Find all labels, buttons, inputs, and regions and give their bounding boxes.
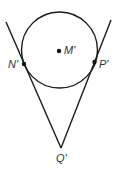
point-n-dot (22, 62, 26, 66)
label-p: P' (99, 58, 109, 70)
label-n: N' (8, 58, 19, 70)
tangent-line-right (61, 20, 111, 148)
geometry-diagram: M' N' P' Q' (0, 0, 116, 180)
point-m-dot (57, 49, 61, 53)
label-m: M' (64, 44, 76, 56)
label-q: Q' (56, 152, 68, 164)
point-p-dot (92, 60, 96, 64)
tangent-line-left (6, 22, 61, 148)
